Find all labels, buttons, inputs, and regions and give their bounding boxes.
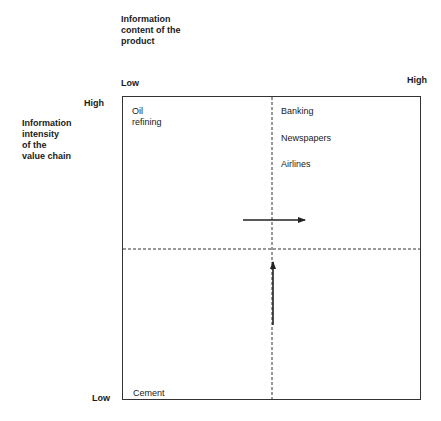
matrix-lines [0,0,441,421]
industry-label-airlines: Airlines [281,159,311,170]
quadrant-top-left: Oil refining [132,106,162,128]
industry-label-newspapers: Newspapers [281,133,331,144]
industry-label-banking: Banking [281,106,314,117]
industry-label-cement: Cement [133,388,165,399]
industry-label: Oil [132,106,162,117]
industry-label: refining [132,117,162,128]
